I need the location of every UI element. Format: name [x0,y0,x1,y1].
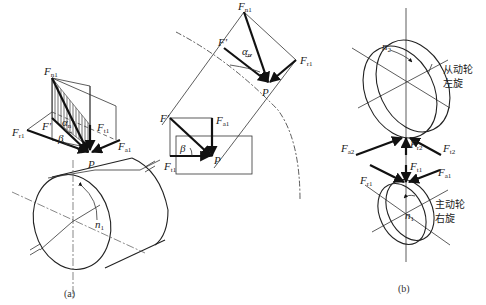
label-fa1-b: Fa1 [437,166,452,180]
driven-gear-hand: 左旋 [443,77,463,89]
label-ft1: Ft1 [96,121,110,135]
label-fn1-top: Fn1 [237,0,252,14]
label-ft2: Ft2 [442,142,456,156]
label-fa1: Fa1 [117,140,132,154]
panel-middle: Fn1 F' αn Fr1 P F' Fa1 β P Ft1 [159,0,313,200]
driving-gear-label: 主动轮 [435,198,465,210]
label-fr2: Fr2 [409,138,423,152]
panel-a: Fn1 Fr1 F' αn β Ft1 Fa1 P n1 (a) [11,65,168,300]
label-fr1-b: Fr1 [359,174,373,188]
driving-gear-hand: 右旋 [435,212,455,224]
label-ft1-b: Ft1 [409,160,423,174]
label-f-prime-bottom: F' [159,112,170,124]
label-p: P [87,158,95,170]
label-fr1-right: Fr1 [299,54,313,68]
caption-a: (a) [64,288,75,300]
label-ft1-mid: Ft1 [163,160,177,174]
label-p-bottom: P [213,154,221,166]
label-beta: β [57,132,64,144]
driven-gear-label: 从动轮 [443,63,473,75]
label-fn1: Fn1 [43,65,58,79]
label-n1-b: n1 [405,209,415,223]
label-beta-mid: β [179,142,186,154]
label-n1: n1 [95,218,105,232]
force-prism [27,78,120,152]
label-alpha-n-mid: αn [242,45,252,59]
label-n2: n2 [382,40,392,54]
panel-b: 从动轮 左旋 n2 Fa2 Fr2 Ft2 Ft1 Fa1 Fr1 n1 主动轮… [340,8,473,295]
caption-b: (b) [398,283,410,295]
gear-cylinder [12,158,168,300]
label-fa2: Fa2 [340,142,355,156]
helical-gear-force-diagram: Fn1 Fr1 F' αn β Ft1 Fa1 P n1 (a) Fn1 F' … [0,0,486,305]
label-f-prime-top: F' [217,36,228,48]
label-p-top: P [261,86,269,98]
label-fa1-bottom: Fa1 [215,114,230,128]
label-f-prime: F' [41,120,52,132]
label-fr1: Fr1 [11,126,25,140]
